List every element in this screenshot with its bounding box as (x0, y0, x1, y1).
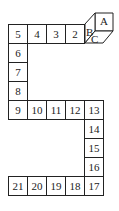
face-a-label: A (100, 16, 108, 27)
path-cell-9: 9 (8, 100, 28, 120)
cube-icon (0, 0, 119, 60)
path-cell-13: 13 (84, 100, 104, 120)
path-cell-10: 10 (27, 100, 47, 120)
path-cell-16: 16 (84, 157, 104, 177)
path-cell-7: 7 (8, 62, 28, 82)
path-cell-21: 21 (8, 176, 28, 196)
path-cell-15: 15 (84, 138, 104, 158)
path-cell-11: 11 (46, 100, 66, 120)
path-cell-20: 20 (27, 176, 47, 196)
path-cell-12: 12 (65, 100, 85, 120)
path-cell-18: 18 (65, 176, 85, 196)
path-cell-14: 14 (84, 119, 104, 139)
path-cell-19: 19 (46, 176, 66, 196)
face-c-label: C (91, 34, 98, 45)
path-cell-8: 8 (8, 81, 28, 101)
path-cell-17: 17 (84, 176, 104, 196)
